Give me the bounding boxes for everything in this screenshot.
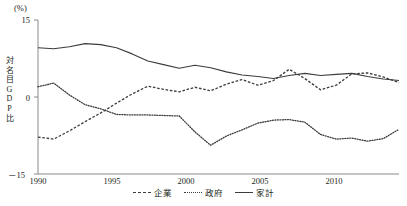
dashed-line-swatch-icon <box>133 189 151 196</box>
solid-line-swatch-icon <box>235 189 253 196</box>
series-line-家計 <box>38 44 399 81</box>
chart-figure: (%) 対 名 目 G D P 比 15 0 －15 1990 1995 200… <box>0 0 407 206</box>
legend-item-corporate: 企業 <box>133 186 172 198</box>
legend-item-household: 家計 <box>235 186 274 198</box>
chart-legend: 企業 政府 家計 <box>0 186 407 198</box>
data-series-layer <box>38 44 399 146</box>
line-chart-plot <box>0 0 407 206</box>
legend-item-government: 政府 <box>184 186 223 198</box>
series-line-企業 <box>38 69 399 139</box>
series-line-政府 <box>38 83 399 145</box>
legend-label-corporate: 企業 <box>154 186 172 198</box>
legend-label-government: 政府 <box>205 186 223 198</box>
legend-label-household: 家計 <box>256 186 274 198</box>
dotted-line-swatch-icon <box>184 189 202 196</box>
